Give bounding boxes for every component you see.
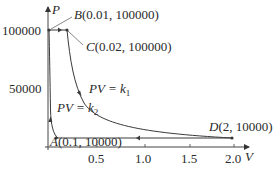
x-axis-label: V: [245, 149, 255, 164]
annotation-pv-k2: PV = k2: [56, 100, 98, 117]
leader-b: [51, 17, 72, 29]
y-tick-50000: 50000: [9, 81, 42, 96]
leader-c: [68, 31, 83, 45]
x-tick-0.5: 0.5: [88, 151, 104, 166]
x-tick-1.5: 1.5: [181, 151, 197, 166]
arrow-k2-icon: [48, 117, 52, 123]
annotation-pv-k1: PV = k1: [88, 81, 130, 98]
x-tick-1.0: 1.0: [135, 151, 151, 166]
x-tick-2.0: 2.0: [225, 151, 241, 166]
label-point-d: D(2, 10000): [208, 119, 273, 134]
label-point-c: C(0.02, 100000): [86, 39, 172, 54]
pv-diagram: P V 100000 50000 0.5 1.0 1.5 2.0 B(0.01,…: [0, 0, 276, 175]
y-axis-label: P: [51, 2, 60, 17]
label-point-a: A(0.1, 10000): [49, 134, 122, 149]
arrow-d-a-icon: [136, 136, 140, 141]
arrow-b-c-icon: [58, 28, 62, 33]
point-b: [47, 28, 50, 31]
y-tick-100000: 100000: [2, 23, 41, 38]
arrow-k1-icon: [77, 91, 82, 97]
point-d: [230, 136, 233, 139]
label-point-b: B(0.01, 100000): [74, 7, 159, 22]
